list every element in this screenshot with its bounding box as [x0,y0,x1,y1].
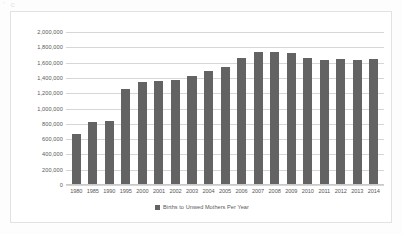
x-axis-tick-label: 2003 [184,188,201,194]
bar-slot [151,32,168,185]
bar-slot [85,32,102,185]
y-axis-tick-label: 1,800,000 [11,44,63,50]
x-axis: 1980198519901995200020012002200320042005… [66,188,384,194]
bar [105,121,114,185]
x-axis-tick-label: 2002 [167,188,184,194]
bar [369,59,378,185]
x-axis-tick-label: 2000 [134,188,151,194]
bar-slot [316,32,333,185]
bar-slot [233,32,250,185]
x-axis-tick-label: 1995 [118,188,135,194]
bar [287,53,296,185]
bar-slot [101,32,118,185]
x-axis-tick-label: 2013 [349,188,366,194]
x-axis-tick-label: 1985 [85,188,102,194]
bar-slot [250,32,267,185]
bar [353,60,362,185]
bar [254,52,263,185]
bar [237,58,246,185]
gridline [66,185,384,186]
chart-legend: Births to Unwed Mothers Per Year [11,204,393,210]
bar-slot [118,32,135,185]
axis-baseline [66,184,384,185]
bar [336,59,345,185]
x-axis-tick-label: 2012 [333,188,350,194]
scan-artifact-text: ' c [3,0,17,9]
x-axis-tick-label: 2005 [217,188,234,194]
x-axis-tick-label: 2007 [250,188,267,194]
y-axis-tick-label: 1,400,000 [11,75,63,81]
bar-slot [349,32,366,185]
legend-swatch-icon [155,205,160,210]
y-axis-tick-label: 2,000,000 [11,29,63,35]
y-axis-tick-label: 1,600,000 [11,60,63,66]
bar-slot [200,32,217,185]
y-axis-tick-label: 200,000 [11,167,63,173]
x-axis-tick-label: 2008 [266,188,283,194]
x-axis-tick-label: 2006 [233,188,250,194]
bar [204,71,213,185]
bar-slot [134,32,151,185]
bar-slot [68,32,85,185]
bar [121,89,130,185]
bar [171,80,180,185]
bar [320,60,329,185]
bar-slot [217,32,234,185]
y-axis-tick-label: 1,200,000 [11,90,63,96]
bar [303,58,312,185]
bar-slot [167,32,184,185]
bar-series [66,32,384,185]
bar [221,67,230,185]
x-axis-tick-label: 2011 [316,188,333,194]
x-axis-tick-label: 1990 [101,188,118,194]
bar-slot [366,32,383,185]
y-axis-tick-label: 600,000 [11,136,63,142]
bar [270,52,279,185]
bar [72,134,81,185]
y-axis-tick-label: 0 [11,182,63,188]
scanned-page: ' c 2,000,0001,800,0001,600,0001,400,000… [0,0,402,234]
x-axis-tick-label: 2014 [366,188,383,194]
legend-label: Births to Unwed Mothers Per Year [163,204,249,210]
y-axis: 2,000,0001,800,0001,600,0001,400,0001,20… [11,32,63,185]
chart-container: 2,000,0001,800,0001,600,0001,400,0001,20… [10,11,392,223]
x-axis-tick-label: 2010 [299,188,316,194]
y-axis-tick-label: 400,000 [11,151,63,157]
x-axis-tick-label: 2009 [283,188,300,194]
plot-area [66,32,384,185]
bar [154,81,163,185]
bar [187,76,196,185]
bar-slot [266,32,283,185]
x-axis-tick-label: 1980 [68,188,85,194]
bar [138,82,147,185]
bar-slot [184,32,201,185]
bar-slot [299,32,316,185]
bar-slot [283,32,300,185]
x-axis-tick-label: 2004 [200,188,217,194]
bar [88,122,97,185]
bar-slot [333,32,350,185]
y-axis-tick-label: 800,000 [11,121,63,127]
x-axis-tick-label: 2001 [151,188,168,194]
y-axis-tick-label: 1,000,000 [11,106,63,112]
